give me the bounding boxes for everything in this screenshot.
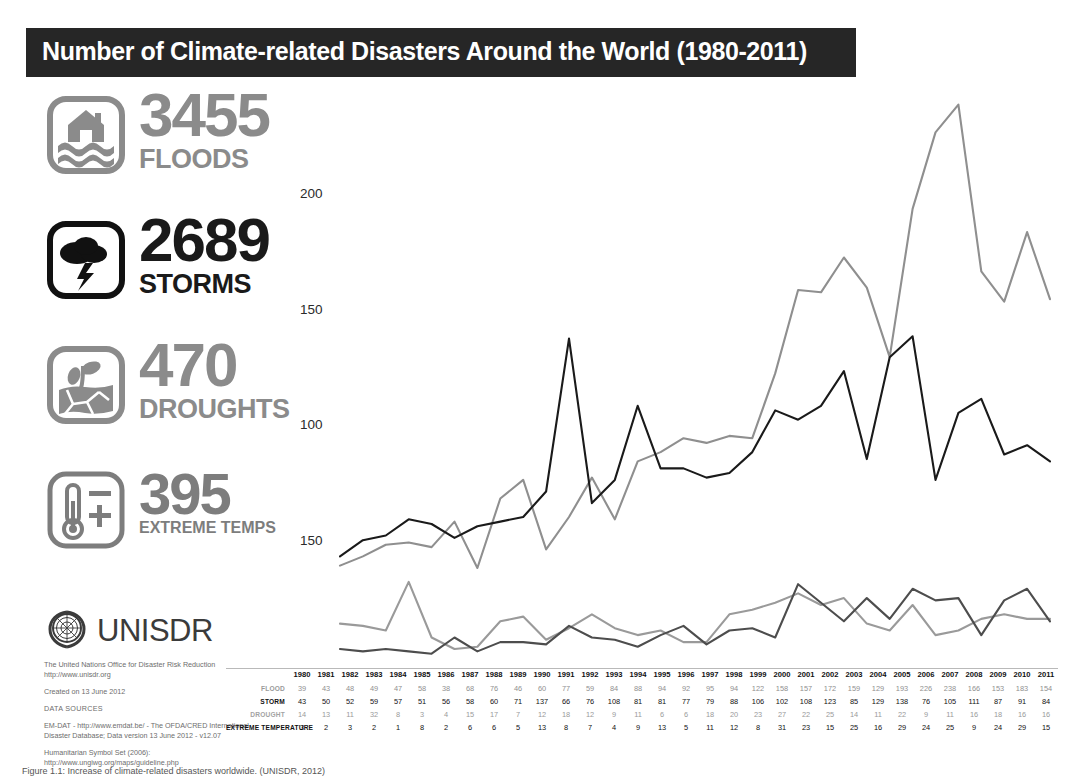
table-cell: 105 [938,695,962,708]
year-header: 1985 [410,670,434,682]
table-cell: 79 [698,695,722,708]
table-cell: 29 [1010,721,1034,734]
table-cell: 2 [314,721,338,734]
table-cell: 7 [578,721,602,734]
table-cell: 16 [866,721,890,734]
table-cell: 3 [338,721,362,734]
table-row: FLOOD39434849475838687646607759848894929… [226,682,1058,695]
y-axis-tick: 100 [300,417,323,432]
table-cell: 172 [818,682,842,695]
drought-icon [47,346,125,424]
table-cell: 76 [578,695,602,708]
table-cell: 22 [794,708,818,721]
table-cell: 14 [290,708,314,721]
table-cell: 56 [434,695,458,708]
table-cell: 9 [602,708,626,721]
table-cell: 123 [818,695,842,708]
table-cell: 68 [458,682,482,695]
table-cell: 238 [938,682,962,695]
table-cell: 12 [530,708,554,721]
year-header: 2008 [962,670,986,682]
table-cell: 32 [362,708,386,721]
year-header: 1996 [674,670,698,682]
disasters-line-chart: 200150100150 [296,96,1056,666]
infographic-page: Number of Climate-related Disasters Arou… [0,0,1068,783]
table-cell: 16 [1034,708,1058,721]
year-header: 1982 [338,670,362,682]
stat-label-droughts: DROUGHTS [139,394,290,425]
table-cell: 8 [386,708,410,721]
table-cell: 6 [650,708,674,721]
table-cell: 47 [386,682,410,695]
table-cell: 60 [530,682,554,695]
data-table: 1980198119821983198419851986198719881989… [226,670,1058,734]
data-table-wrap: 1980198119821983198419851986198719881989… [226,670,1058,734]
stat-value-floods: 3455 [139,84,269,146]
year-header: 1994 [626,670,650,682]
table-cell: 12 [578,708,602,721]
year-header: 2001 [794,670,818,682]
stat-extreme-temps: 395 EXTREME TEMPS [47,467,287,572]
year-header: 1998 [722,670,746,682]
row-label: EXTREME TEMPERATURE [226,721,290,734]
table-cell: 108 [794,695,818,708]
un-emblem-icon [44,606,90,656]
table-cell: 27 [770,708,794,721]
table-cell: 1 [386,721,410,734]
table-cell: 11 [338,708,362,721]
table-cell: 6 [458,721,482,734]
summary-stats: 3455 FLOODS 2689 STORMS [47,92,287,592]
table-cell: 16 [962,708,986,721]
table-cell: 29 [890,721,914,734]
table-cell: 159 [842,682,866,695]
table-cell: 52 [338,695,362,708]
table-cell: 66 [554,695,578,708]
table-cell: 157 [794,682,818,695]
table-cell: 57 [386,695,410,708]
table-cell: 4 [434,708,458,721]
unisdr-wordmark: UNISDR [97,613,213,649]
table-cell: 11 [938,708,962,721]
year-header: 1984 [386,670,410,682]
table-cell: 81 [626,695,650,708]
table-cell: 43 [290,695,314,708]
table-cell: 60 [482,695,506,708]
table-cell: 46 [506,682,530,695]
year-header: 1986 [434,670,458,682]
row-label: FLOOD [226,682,290,695]
table-cell: 22 [890,708,914,721]
table-cell: 2 [434,721,458,734]
table-cell: 59 [578,682,602,695]
table-cell: 87 [986,695,1010,708]
title-bar: Number of Climate-related Disasters Arou… [26,28,856,77]
table-cell: 23 [746,708,770,721]
table-cell: 95 [698,682,722,695]
table-cell: 58 [458,695,482,708]
table-cell: 5 [506,721,530,734]
year-header: 1989 [506,670,530,682]
table-cell: 24 [986,721,1010,734]
stat-label-storms: STORMS [139,269,251,300]
table-cell: 102 [770,695,794,708]
stat-label-floods: FLOODS [139,144,249,175]
table-cell: 138 [890,695,914,708]
table-cell: 25 [842,721,866,734]
table-cell: 226 [914,682,938,695]
table-cell: 25 [818,708,842,721]
year-header: 1997 [698,670,722,682]
year-header: 2005 [890,670,914,682]
stat-value-temps: 395 [139,463,230,525]
stat-droughts: 470 DROUGHTS [47,342,287,447]
table-cell: 85 [842,695,866,708]
table-cell: 11 [698,721,722,734]
table-cell: 84 [1034,695,1058,708]
table-cell: 77 [674,695,698,708]
year-header: 2004 [866,670,890,682]
table-cell: 58 [410,682,434,695]
table-cell: 106 [746,695,770,708]
table-cell: 8 [554,721,578,734]
page-title: Number of Climate-related Disasters Arou… [42,37,807,66]
year-header: 2007 [938,670,962,682]
table-cell: 12 [722,721,746,734]
table-cell: 13 [314,708,338,721]
